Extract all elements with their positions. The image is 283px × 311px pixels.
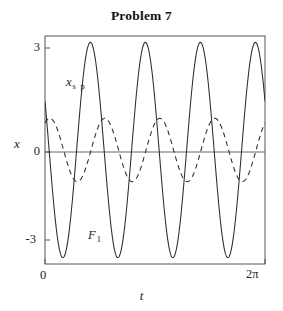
plot-area xyxy=(0,0,283,311)
curve-label-xsp-subscript: s p xyxy=(73,81,86,91)
y-axis-label: x xyxy=(14,136,20,152)
curve-label-xsp-name: x xyxy=(66,75,72,89)
x-axis-label: t xyxy=(0,288,283,304)
chart-figure: Problem 7 3 0 -3 0 2π x t xyxy=(0,0,283,311)
plot-frame xyxy=(45,36,265,264)
x-tick-label-2pi: 2π xyxy=(246,267,259,282)
x-tick-label-0: 0 xyxy=(40,268,46,283)
curve-label-f1-name: F xyxy=(88,228,96,242)
y-tick-label-3: 3 xyxy=(16,40,40,55)
chart-title: Problem 7 xyxy=(0,8,283,24)
y-tick-label-neg3: -3 xyxy=(12,232,36,247)
curve-label-f1-subscript: 1 xyxy=(97,234,102,244)
curve-label-f1: F1 xyxy=(88,228,101,243)
curve-label-xsp: xs p xyxy=(66,75,85,90)
